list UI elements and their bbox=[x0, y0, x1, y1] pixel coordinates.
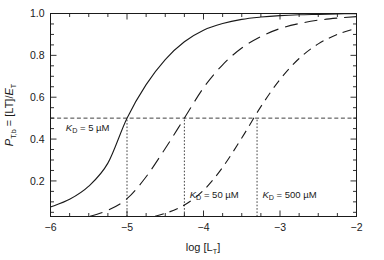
x-tick-label: −5 bbox=[121, 221, 133, 233]
x-tick-label: −2 bbox=[351, 221, 363, 233]
y-tick-label: 0.2 bbox=[30, 175, 45, 187]
y-tick-label: 0.8 bbox=[30, 49, 45, 61]
figure-container: −6−5−4−3−2 0.20.40.60.81.0 KD = 5 µMKD =… bbox=[0, 0, 384, 260]
binding-curve-chart: −6−5−4−3−2 0.20.40.60.81.0 KD = 5 µMKD =… bbox=[0, 0, 384, 260]
chart-background bbox=[0, 0, 384, 260]
y-tick-label: 0.6 bbox=[30, 91, 45, 103]
y-tick-label: 1.0 bbox=[30, 7, 45, 19]
x-tick-label: −3 bbox=[274, 221, 286, 233]
x-tick-label: −4 bbox=[198, 221, 210, 233]
y-tick-label: 0.4 bbox=[30, 133, 45, 145]
x-tick-label: −6 bbox=[45, 221, 57, 233]
